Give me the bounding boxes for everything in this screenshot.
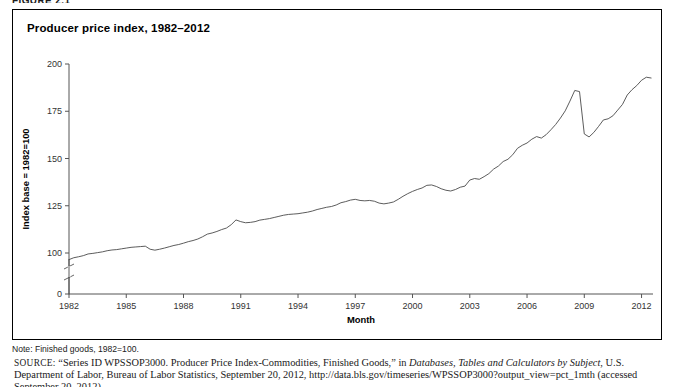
y-tick-label: 150	[47, 154, 62, 164]
chart-plot-area: 0100125150175200198219851988199119941997…	[13, 50, 661, 325]
figure-box: Producer price index, 1982–2012 01001251…	[12, 9, 662, 340]
x-tick-label: 1985	[116, 301, 136, 311]
series-line-ppi	[69, 77, 651, 259]
x-tick-label: 1982	[59, 301, 79, 311]
figure-note: Note: Finished goods, 1982=100.	[12, 344, 139, 354]
x-tick-label: 2012	[632, 301, 652, 311]
y-tick-label: 200	[47, 59, 62, 69]
y-tick-label: 125	[47, 201, 62, 211]
chart-labels: 0100125150175200198219851988199119941997…	[20, 59, 652, 325]
y-tick-label: 0	[57, 289, 62, 299]
figure-number-label: FIGURE 2.1	[12, 0, 70, 3]
source-text-part1: “Series ID WPSSOP3000. Producer Price In…	[58, 357, 409, 368]
x-axis-title: Month	[347, 314, 375, 325]
figure-source: SOURCE: “Series ID WPSSOP3000. Producer …	[14, 357, 664, 387]
figure-title: Producer price index, 1982–2012	[27, 22, 210, 34]
chart-axes	[64, 64, 653, 298]
x-tick-label: 1997	[345, 301, 365, 311]
chart-series	[69, 77, 651, 294]
line-chart: 0100125150175200198219851988199119941997…	[13, 50, 661, 325]
x-tick-label: 2000	[403, 301, 423, 311]
figure-page: FIGURE 2.1 Producer price index, 1982–20…	[0, 0, 674, 387]
x-tick-label: 1991	[231, 301, 251, 311]
y-tick-label: 100	[47, 248, 62, 258]
x-tick-label: 1994	[288, 301, 308, 311]
source-label: SOURCE:	[14, 358, 56, 368]
x-tick-label: 1988	[173, 301, 193, 311]
y-tick-label: 175	[47, 106, 62, 116]
x-tick-label: 2003	[460, 301, 480, 311]
y-axis-title: Index base = 1982=100	[20, 128, 31, 229]
x-tick-label: 2009	[574, 301, 594, 311]
source-italic-title: Databases, Tables and Calculators by Sub…	[409, 357, 600, 368]
x-tick-label: 2006	[517, 301, 537, 311]
